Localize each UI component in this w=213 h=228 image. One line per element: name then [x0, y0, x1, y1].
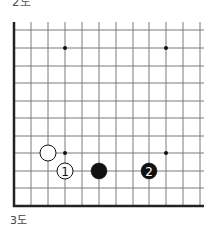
go-board-diagram: 12 — [0, 0, 213, 228]
star-point-icon — [164, 151, 168, 155]
white-stone-move-1: 1 — [57, 163, 73, 179]
white-stone — [40, 145, 56, 161]
star-point-icon — [63, 46, 67, 50]
move-number: 2 — [145, 165, 153, 179]
black-stone — [91, 163, 107, 179]
figure-caption: 3도 — [10, 211, 27, 227]
star-point-icon — [164, 46, 168, 50]
star-point-icon — [63, 151, 67, 155]
move-number: 1 — [61, 165, 69, 179]
black-stone-move-2: 2 — [141, 163, 157, 179]
